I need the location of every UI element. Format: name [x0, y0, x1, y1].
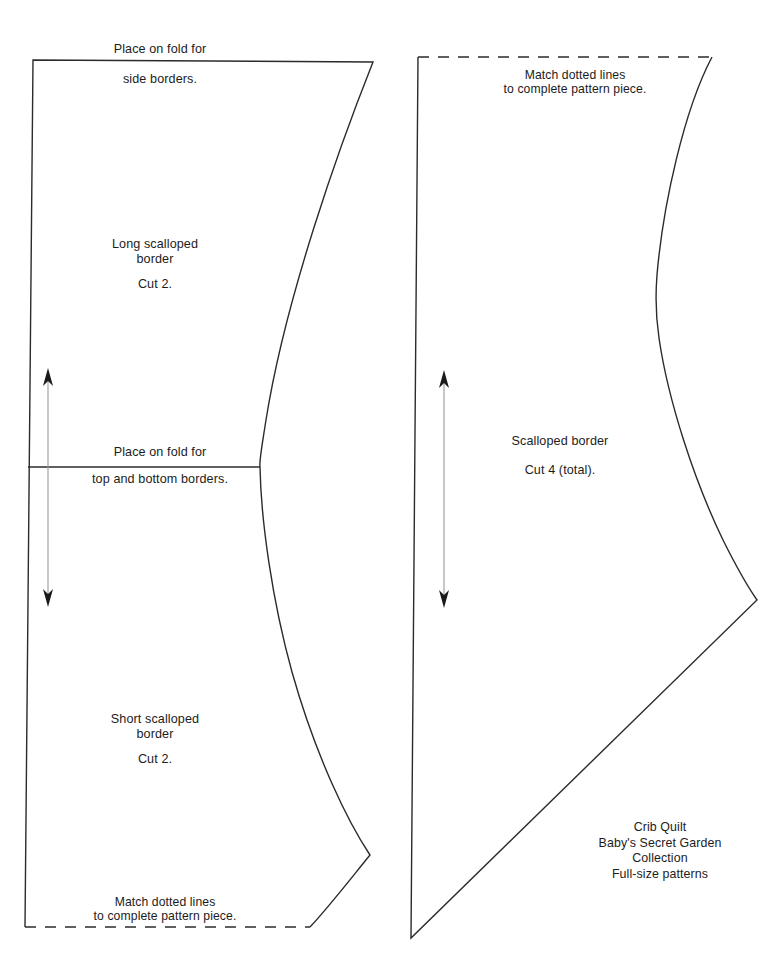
right-pattern-piece	[411, 57, 757, 938]
scalloped-border-cut-count: Cut 4 (total).	[450, 463, 670, 478]
short-scalloped-border-cut-count: Cut 2.	[55, 752, 255, 767]
long-scalloped-border-cut-count: Cut 2.	[55, 277, 255, 292]
right-piece-grain-arrow	[439, 370, 449, 608]
right-match-dotted-lines-note: Match dotted lines to complete pattern p…	[465, 68, 685, 97]
short-scalloped-border-label: Short scalloped border	[55, 712, 255, 742]
left-fold-note-mid-bottom: top and bottom borders.	[55, 472, 265, 487]
long-scalloped-border-label: Long scalloped border	[55, 237, 255, 267]
left-match-dotted-lines-note: Match dotted lines to complete pattern p…	[55, 895, 275, 924]
right-piece-outline	[411, 57, 757, 938]
sheet-caption: Crib Quilt Baby's Secret Garden Collecti…	[560, 820, 760, 882]
left-fold-note-bottom: side borders.	[60, 72, 260, 87]
pattern-sheet: Place on fold for side borders. Long sca…	[0, 0, 778, 972]
left-piece-outline	[25, 60, 373, 927]
scalloped-border-label: Scalloped border	[450, 434, 670, 449]
left-piece-grain-arrow	[43, 368, 53, 607]
left-fold-note-top: Place on fold for	[60, 42, 260, 57]
left-pattern-piece	[25, 60, 373, 927]
left-fold-note-mid-top: Place on fold for	[55, 445, 265, 460]
